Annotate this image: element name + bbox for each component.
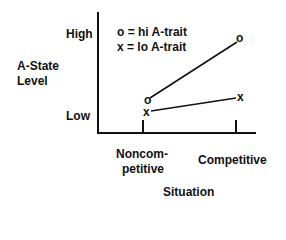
x-tick-label-noncompetitive-1: Noncom- bbox=[116, 147, 168, 161]
x-axis-title: Situation bbox=[163, 185, 214, 199]
legend-lo-trait: x = lo A-trait bbox=[117, 40, 186, 54]
legend-hi-trait: o = hi A-trait bbox=[117, 25, 187, 39]
marker-lo-noncompetitive: x bbox=[143, 105, 150, 119]
y-axis-title-line2: Level bbox=[17, 74, 48, 88]
y-tick-low: Low bbox=[66, 109, 90, 123]
marker-lo-competitive: x bbox=[237, 90, 244, 104]
y-axis-title-line1: A-State bbox=[17, 59, 59, 73]
marker-hi-competitive: o bbox=[236, 31, 243, 45]
y-tick-high: High bbox=[66, 27, 93, 41]
x-tick-label-noncompetitive-2: petitive bbox=[122, 162, 164, 176]
lo-trait-line bbox=[151, 98, 236, 111]
x-tick-label-competitive: Competitive bbox=[198, 153, 267, 167]
